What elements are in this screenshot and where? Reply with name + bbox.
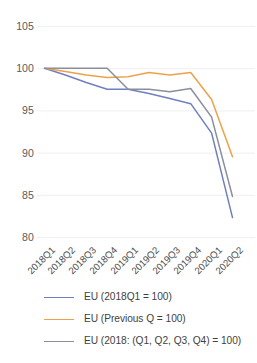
chart-legend: EU (2018Q1 = 100)EU (Previous Q = 100)EU… (0, 286, 257, 363)
legend-item[interactable]: EU (Previous Q = 100) (0, 308, 257, 330)
line-chart: 10510095908580 2018Q12018Q22018Q32018Q42… (0, 0, 257, 363)
series-line-3 (45, 68, 233, 196)
y-tick-label: 105 (8, 21, 34, 32)
y-tick-label: 95 (8, 105, 34, 116)
legend-swatch-line-icon (44, 341, 74, 342)
y-tick-label: 85 (8, 190, 34, 201)
legend-label: EU (Previous Q = 100) (84, 313, 186, 325)
gridlines (37, 27, 256, 238)
legend-item[interactable]: EU (2018Q1 = 100) (0, 286, 257, 308)
y-tick-label: 80 (8, 232, 34, 243)
x-axis-ticks: 2018Q12018Q22018Q32018Q42019Q12019Q22019… (0, 245, 257, 290)
y-tick-label: 100 (8, 63, 34, 74)
plot-area: 10510095908580 (0, 0, 257, 245)
legend-swatch-line-icon (44, 319, 74, 320)
y-tick-label: 90 (8, 148, 34, 159)
legend-swatch-line-icon (44, 297, 74, 298)
series-line-2 (45, 68, 233, 157)
legend-item[interactable]: EU (2018: (Q1, Q2, Q3, Q4) = 100) (0, 330, 257, 352)
legend-label: EU (2018: (Q1, Q2, Q3, Q4) = 100) (84, 335, 241, 347)
legend-label: EU (2018Q1 = 100) (84, 291, 172, 303)
chart-canvas (0, 0, 257, 245)
